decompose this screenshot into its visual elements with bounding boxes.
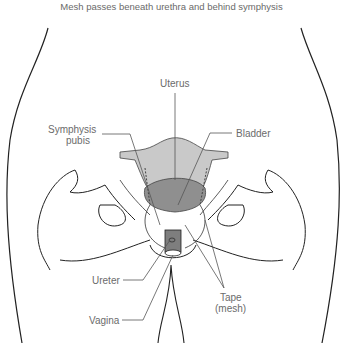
pelvic-anatomy-diagram (0, 0, 343, 343)
bladder-shape (144, 178, 205, 212)
tape-label-line2: (mesh) (215, 303, 246, 314)
left-hip-bone (38, 170, 150, 270)
symphysis-label-line1: Symphysis (48, 124, 96, 135)
ureter-label: Ureter (92, 275, 120, 286)
vagina-leader (122, 255, 173, 320)
ureter-leader (123, 240, 170, 280)
vagina-tube (165, 230, 181, 252)
uterus-label: Uterus (160, 78, 189, 89)
bladder-label: Bladder (236, 128, 270, 139)
symphysis-label-line2: pubis (66, 135, 90, 146)
body-outline-right (301, 28, 339, 343)
tape-leader-1 (185, 225, 224, 288)
tape-leader-2 (205, 220, 224, 288)
vagina-label: Vagina (89, 315, 119, 326)
right-hip-bone (193, 170, 305, 270)
tape-label-line1: Tape (220, 292, 242, 303)
leg-midline (158, 265, 184, 343)
body-outline-left (7, 28, 48, 343)
